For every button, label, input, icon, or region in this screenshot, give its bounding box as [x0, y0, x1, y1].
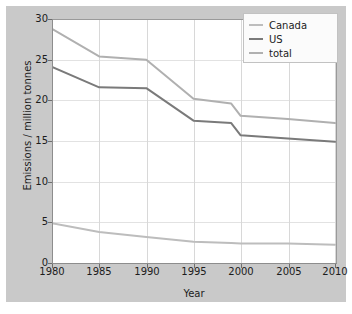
ytick-mark-10 — [48, 182, 52, 183]
y-axis-label-wrap: Emissions / million tonnes — [0, 0, 20, 290]
chart-figure: 30 25 20 15 10 5 0 1980 1985 1990 1995 2… — [0, 0, 352, 314]
legend-swatch-total — [249, 52, 263, 54]
xtick-label-2000: 2000 — [220, 266, 262, 277]
legend-item-total[interactable]: total — [249, 46, 332, 60]
ytick-label-30: 30 — [26, 14, 48, 24]
legend-item-us[interactable]: US — [249, 32, 332, 46]
xtick-label-1990: 1990 — [126, 266, 168, 277]
ytick-mark-5 — [48, 222, 52, 223]
ytick-mark-30 — [48, 19, 52, 20]
axis-left-spine — [52, 19, 53, 264]
legend-swatch-canada — [249, 24, 263, 26]
legend-label-canada: Canada — [269, 20, 307, 31]
legend-item-canada[interactable]: Canada — [249, 18, 332, 32]
ytick-mark-15 — [48, 141, 52, 142]
xtick-label-2005: 2005 — [268, 266, 310, 277]
ytick-mark-25 — [48, 60, 52, 61]
y-axis-label: Emissions / million tonnes — [22, 36, 33, 216]
ytick-label-5: 5 — [26, 217, 48, 227]
xtick-label-2010: 2010 — [314, 266, 352, 277]
xtick-label-1995: 1995 — [173, 266, 215, 277]
line-us — [52, 67, 335, 142]
legend-label-total: total — [269, 48, 292, 59]
x-axis-label: Year — [52, 288, 336, 299]
legend-label-us: US — [269, 34, 283, 45]
line-canada — [52, 223, 335, 245]
xtick-label-1985: 1985 — [78, 266, 120, 277]
xtick-label-1980: 1980 — [31, 266, 73, 277]
legend-swatch-us — [249, 38, 263, 40]
chart-legend: Canada US total — [243, 13, 338, 63]
ytick-mark-20 — [48, 100, 52, 101]
